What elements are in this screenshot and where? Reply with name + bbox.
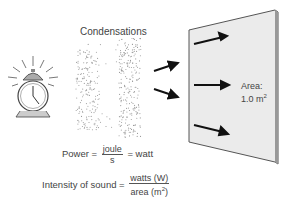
power-fraction: joule s	[102, 144, 123, 165]
alarm-clock-icon	[2, 54, 64, 124]
power-denominator: s	[102, 155, 123, 165]
arrow-icon	[154, 89, 178, 97]
intensity-fraction: watts (W) area (m2)	[129, 173, 169, 197]
intensity-denominator: area (m2)	[129, 184, 169, 197]
intensity-denominator-text: area (m	[131, 187, 162, 197]
area-label: Area: 1.0 m2	[241, 81, 267, 104]
sound-wave-arrows	[150, 55, 185, 105]
power-numerator: joule	[102, 144, 123, 155]
arrow-icon	[154, 63, 178, 71]
area-label-title: Area:	[241, 81, 267, 91]
intensity-denominator-close: )	[165, 187, 168, 197]
power-lhs: Power =	[62, 148, 97, 159]
area-value: 1.0 m	[241, 94, 264, 104]
wall-surface	[185, 8, 285, 168]
area-unit-exponent: 2	[264, 93, 267, 99]
condensations-label: Condensations	[80, 26, 147, 37]
area-label-value: 1.0 m2	[241, 91, 267, 104]
intensity-lhs: Intensity of sound =	[42, 179, 125, 190]
intensity-equation: Intensity of sound = watts (W) area (m2)	[42, 173, 171, 197]
compression-dots	[70, 38, 150, 138]
power-rhs: = watt	[127, 148, 153, 159]
intensity-numerator: watts (W)	[129, 173, 169, 184]
power-equation: Power = joule s = watt	[62, 144, 153, 165]
